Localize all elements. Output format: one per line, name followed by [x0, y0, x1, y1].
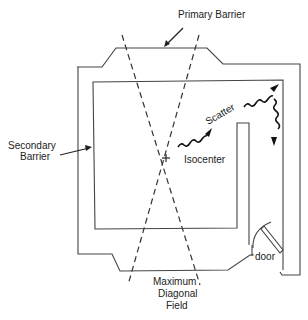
max-field-label-3: Field: [166, 300, 188, 311]
scatter-arrowhead-2: [270, 84, 279, 92]
inner-wall: [93, 80, 283, 270]
secondary-barrier-label-1: Secondary: [8, 140, 56, 151]
door-panel: [261, 226, 283, 253]
door[interactable]: [253, 222, 283, 253]
scatter-label: Scatter: [204, 101, 238, 127]
secondary-barrier-arrow: [60, 148, 89, 155]
primary-barrier-label: Primary Barrier: [178, 9, 246, 20]
scatter-wave-2: [244, 96, 273, 107]
max-field-label-2: Diagonal: [158, 288, 197, 299]
primary-barrier-arrowhead: [164, 40, 170, 47]
scatter-wave-3: [274, 99, 280, 129]
secondary-barrier-label-2: Barrier: [20, 151, 51, 162]
scatter-arrowhead-3: [271, 137, 277, 146]
outer-wall-bottom: [78, 67, 253, 271]
door-swing-arc: [253, 222, 271, 248]
secondary-barrier-arrowhead: [85, 145, 92, 151]
primary-barrier-arrow: [166, 28, 183, 45]
max-field-label-1: Maximum: [153, 276, 196, 287]
vault-diagram: Primary Barrier Secondary Barrier Scatte…: [0, 0, 308, 320]
isocenter-label: Isocenter: [184, 154, 226, 165]
door-label: door: [255, 251, 276, 262]
scatter-wave-1: [178, 136, 207, 147]
